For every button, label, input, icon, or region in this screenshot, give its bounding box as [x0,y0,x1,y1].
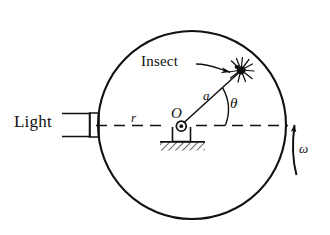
radius-label: r [131,111,136,124]
rotation-arrow [293,125,297,175]
physics-diagram-figure: Light Insect r O a θ ω [0,0,330,235]
angular-velocity-label: ω [299,142,308,155]
insect-leader-line [196,64,230,72]
angle-label: θ [230,96,237,111]
insect-label: Insect [141,54,178,69]
rod-length-label: a [203,89,210,102]
insect-head [235,65,240,69]
angle-arc [223,88,229,126]
ground-hatching [160,142,205,151]
center-label: O [171,106,182,121]
light-label: Light [14,113,52,130]
light-source [62,113,99,137]
